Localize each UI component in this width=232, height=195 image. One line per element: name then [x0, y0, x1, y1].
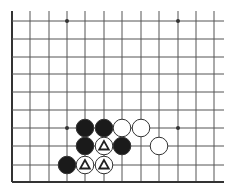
- white-stone-circle: [113, 119, 131, 137]
- star-point: [65, 126, 69, 130]
- black-stone: [76, 137, 94, 155]
- black-stone-circle: [58, 156, 76, 174]
- black-stone-circle: [95, 119, 113, 137]
- board-grid: [12, 11, 224, 182]
- black-stone-circle: [76, 119, 94, 137]
- black-stone: [58, 156, 76, 174]
- black-stone-circle: [113, 137, 131, 155]
- black-stone: [113, 137, 131, 155]
- star-point: [176, 126, 180, 130]
- black-stone: [95, 119, 113, 137]
- star-point: [176, 19, 180, 23]
- white-stone: [132, 119, 150, 137]
- white-stone: [150, 137, 168, 155]
- black-stone-circle: [76, 137, 94, 155]
- white-stone-circle: [132, 119, 150, 137]
- white-stone-circle: [150, 137, 168, 155]
- white-stone: [76, 156, 94, 174]
- black-stone: [76, 119, 94, 137]
- white-stone: [95, 137, 113, 155]
- white-stone: [95, 156, 113, 174]
- white-stone: [113, 119, 131, 137]
- go-board: [0, 0, 232, 195]
- star-point: [65, 19, 69, 23]
